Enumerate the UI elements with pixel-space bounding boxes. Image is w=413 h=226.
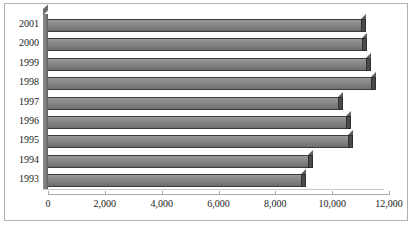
- chart-frame: 200120001999199819971996199519941993 02,…: [4, 3, 408, 221]
- x-axis-tick: [219, 191, 220, 195]
- bar: [48, 174, 301, 187]
- x-axis-tick: [275, 191, 276, 195]
- bar: [48, 116, 346, 129]
- bar-end-cap: [348, 135, 353, 148]
- x-axis-tick-label: 8,000: [264, 199, 287, 209]
- x-axis-back-line: [43, 189, 384, 190]
- bar: [48, 38, 362, 51]
- bar: [48, 155, 308, 168]
- x-axis-tick: [332, 191, 333, 195]
- x-axis-tick: [48, 191, 49, 195]
- bar-end-cap: [301, 174, 306, 187]
- x-axis-tick-label: 6,000: [207, 199, 230, 209]
- bar: [48, 19, 361, 32]
- bar-end-cap: [346, 116, 351, 129]
- bar-end-cap: [361, 19, 366, 32]
- x-axis-tick-label: 10,000: [318, 199, 346, 209]
- bar: [48, 77, 371, 90]
- bar-end-cap: [366, 58, 371, 71]
- bar-end-cap: [308, 155, 313, 168]
- x-axis-tick: [389, 191, 390, 195]
- bar-end-cap: [371, 77, 376, 90]
- x-axis-tick: [162, 191, 163, 195]
- x-axis-tick-label: 0: [46, 199, 51, 209]
- bar-end-cap: [338, 97, 343, 110]
- bar-end-cap: [362, 38, 367, 51]
- x-axis-tick-label: 2,000: [94, 199, 117, 209]
- plot-area: 200120001999199819971996199519941993 02,…: [5, 4, 409, 222]
- bar: [48, 58, 366, 71]
- x-axis-tick-label: 4,000: [150, 199, 173, 209]
- bar: [48, 135, 348, 148]
- x-axis-tick-label: 12,000: [375, 199, 403, 209]
- bar: [48, 97, 338, 110]
- x-axis-tick: [105, 191, 106, 195]
